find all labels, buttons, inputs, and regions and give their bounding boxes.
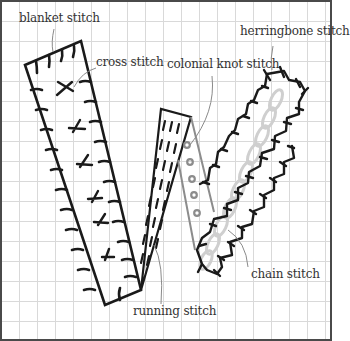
label-running-stitch: running stitch (133, 304, 216, 318)
leader-blanket (52, 29, 54, 52)
label-blanket-stitch: blanket stitch (19, 11, 100, 25)
label-cross-stitch: cross stitch (96, 55, 164, 69)
blanket-stitch-band (25, 41, 141, 305)
label-colonial-knot-stitch: colonial knot stitch (167, 57, 279, 71)
label-herringbone-stitch: herringbone stitch (240, 24, 350, 38)
running-stitch-band (141, 109, 191, 290)
leader-running (154, 245, 162, 304)
label-chain-stitch: chain stitch (251, 267, 320, 281)
leader-colonial (190, 76, 213, 145)
stitch-illustration (2, 2, 334, 341)
cross-stitches (57, 82, 114, 260)
